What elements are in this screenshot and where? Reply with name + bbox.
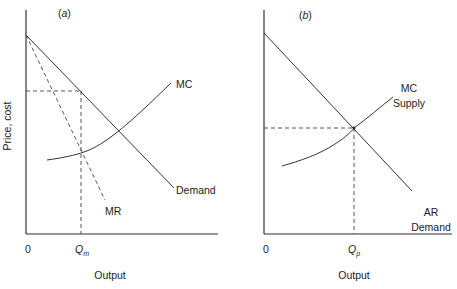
panel-b-tag: (b) — [299, 9, 312, 21]
panel-b-origin-label: 0 — [263, 243, 269, 255]
panel-b-demand-curve — [264, 33, 412, 191]
panel-b: (b) MC Supply AR Demand 0 Qp Output — [263, 9, 452, 281]
panel-a-demand-curve — [26, 35, 174, 188]
panel-b-supply-curve — [282, 97, 393, 166]
panel-a-origin-label: 0 — [25, 243, 31, 255]
panel-a-x-axis-label: Output — [94, 269, 126, 281]
figure-canvas: Price, cost (a) MC Demand MR 0 Qm Output… — [0, 0, 457, 289]
panel-a-mr-label: MR — [105, 205, 122, 217]
panel-b-mc-label: MC — [401, 82, 418, 94]
panel-a-mr-curve — [26, 35, 105, 200]
panel-a-qm-label: Qm — [75, 243, 89, 257]
y-axis-label: Price, cost — [1, 101, 13, 150]
panel-b-equilibrium-point — [353, 127, 356, 130]
panel-b-supply-label: Supply — [393, 97, 426, 109]
panel-a: (a) MC Demand MR 0 Qm Output — [25, 7, 218, 281]
panel-a-mc-label: MC — [176, 78, 193, 90]
panel-b-demand-label: Demand — [411, 221, 451, 233]
panel-b-x-axis-label: Output — [338, 269, 370, 281]
panel-a-demand-label: Demand — [176, 184, 216, 196]
panel-b-ar-label: AR — [424, 206, 439, 218]
panel-b-qp-label: Qp — [348, 243, 360, 258]
panel-a-tag: (a) — [58, 7, 71, 19]
